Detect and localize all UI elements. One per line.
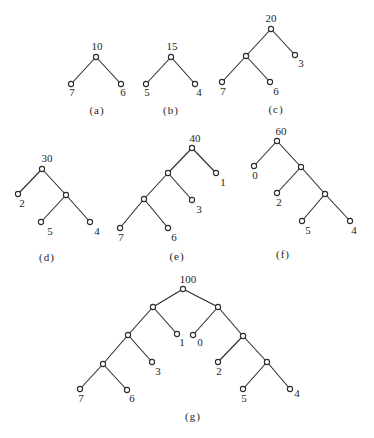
tree-edge: [71, 57, 96, 84]
node-weight-label: 4: [351, 224, 357, 236]
tree-edge: [103, 364, 127, 390]
tree-node: [39, 166, 44, 171]
node-weight-label: 40: [190, 132, 202, 144]
node-weight-label: 4: [94, 225, 100, 237]
tree-edge: [183, 289, 218, 307]
tree-edge: [218, 336, 243, 362]
node-weight-label: 0: [197, 336, 203, 348]
tree-a: 1076(a): [68, 40, 126, 117]
node-weight-label: 5: [305, 224, 311, 236]
tree-edge: [246, 29, 271, 56]
tree-internal-node: [298, 164, 303, 169]
tree-node: [274, 190, 279, 195]
tree-edge: [193, 307, 218, 335]
tree-edge: [96, 57, 121, 84]
node-weight-label: 2: [216, 365, 222, 377]
tree-c: 20376(c): [219, 12, 304, 116]
tree-node: [149, 359, 154, 364]
node-weight-label: 3: [155, 365, 161, 377]
tree-node: [93, 54, 98, 59]
tree-edge: [254, 141, 277, 166]
tree-node: [190, 332, 195, 337]
node-weight-label: 6: [129, 392, 135, 404]
tree-node: [38, 219, 43, 224]
node-weight-label: 6: [171, 231, 177, 243]
tree-e: 401376(e): [117, 132, 225, 263]
tree-node: [287, 386, 292, 391]
tree-node: [251, 163, 256, 168]
node-weight-label: 15: [167, 40, 179, 52]
tree-edge: [222, 56, 246, 82]
node-weight-label: 1: [220, 176, 226, 188]
tree-internal-node: [141, 196, 146, 201]
tree-edge: [168, 173, 192, 200]
tree-edge: [277, 167, 301, 193]
tree-node: [274, 138, 279, 143]
node-weight-label: 6: [120, 86, 126, 98]
tree-node: [268, 26, 273, 31]
tree-node: [15, 191, 20, 196]
tree-edge: [277, 141, 301, 167]
subfigure-caption: (c): [268, 103, 283, 116]
tree-internal-node: [165, 170, 170, 175]
tree-node: [87, 219, 92, 224]
node-weight-label: 3: [196, 203, 202, 215]
tree-edge: [243, 336, 267, 362]
tree-edge: [66, 195, 90, 222]
tree-edge: [271, 29, 295, 55]
tree-node: [77, 386, 82, 391]
tree-edge: [153, 289, 183, 307]
huffman-trees-figure: 1076(a)1554(b)20376(c)30254(d)401376(e)6…: [0, 0, 374, 438]
subfigure-caption: (f): [276, 248, 290, 261]
tree-f: 600254(f): [251, 125, 357, 261]
tree-edge: [267, 362, 290, 389]
tree-edge: [246, 56, 270, 82]
tree-edge: [128, 335, 152, 362]
tree-edge: [301, 167, 325, 194]
node-weight-label: 20: [266, 12, 278, 24]
tree-edge: [168, 148, 192, 173]
tree-edge: [128, 307, 153, 335]
tree-node: [189, 145, 194, 150]
tree-edge: [146, 57, 171, 84]
subfigure-caption: (a): [89, 104, 104, 117]
tree-edge: [42, 169, 66, 195]
tree-internal-node: [215, 304, 220, 309]
node-weight-label: 1: [179, 336, 185, 348]
tree-node: [189, 197, 194, 202]
node-weight-label: 7: [69, 86, 75, 98]
tree-node: [292, 52, 297, 57]
tree-edge: [171, 57, 195, 84]
tree-node: [267, 79, 272, 84]
tree-edge: [302, 194, 325, 221]
tree-node: [168, 54, 173, 59]
tree-internal-node: [63, 192, 68, 197]
node-weight-label: 5: [241, 392, 247, 404]
tree-edge: [243, 362, 267, 389]
node-weight-label: 4: [196, 86, 202, 98]
tree-edge: [18, 169, 42, 194]
tree-edge: [144, 173, 168, 199]
tree-node: [215, 359, 220, 364]
tree-edge: [103, 335, 128, 364]
tree-b: 1554(b): [143, 40, 202, 117]
tree-edge: [41, 195, 66, 222]
tree-edge: [144, 199, 168, 228]
tree-node: [240, 386, 245, 391]
node-weight-label: 4: [294, 387, 300, 399]
tree-internal-node: [240, 333, 245, 338]
tree-internal-node: [322, 191, 327, 196]
tree-edge: [80, 364, 103, 389]
node-weight-label: 0: [252, 169, 258, 181]
node-weight-label: 6: [273, 85, 279, 97]
node-weight-label: 100: [180, 273, 197, 285]
node-weight-label: 7: [78, 392, 84, 404]
subfigure-caption: (e): [169, 250, 184, 263]
tree-internal-node: [243, 53, 248, 58]
tree-internal-node: [264, 359, 269, 364]
tree-edge: [218, 307, 243, 336]
tree-internal-node: [100, 361, 105, 366]
tree-internal-node: [125, 332, 130, 337]
node-weight-label: 2: [276, 196, 282, 208]
tree-edge: [192, 148, 216, 173]
